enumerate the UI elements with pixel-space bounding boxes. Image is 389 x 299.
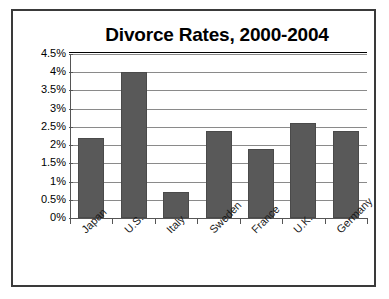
y-axis-tick-label: 1% [18,176,66,187]
y-axis-tick [69,54,73,55]
y-axis-tick-label: 3% [18,103,66,114]
y-axis-tick [69,163,73,164]
x-axis-tick [197,219,198,224]
bar [290,123,316,218]
y-axis-tick [69,200,73,201]
bar [121,72,147,218]
title-underline [69,52,367,53]
y-axis-tick [69,90,73,91]
chart-title: Divorce Rates, 2000-2004 [67,24,367,46]
y-axis-tick-label: 4.5% [18,48,66,59]
x-axis-tick [240,219,241,224]
y-axis-tick-label: 0.5% [18,194,66,205]
x-axis-tick [70,219,71,224]
y-axis-tick-label: 4% [18,66,66,77]
y-axis-tick-labels: 0%0.5%1%1.5%2%2.5%3%3.5%4%4.5% [16,54,66,219]
gridline [70,127,367,128]
chart-frame: Divorce Rates, 2000-2004 0%0.5%1%1.5%2%2… [11,9,376,287]
x-axis-tick [155,219,156,224]
gridline [70,109,367,110]
y-axis-tick-label: 0% [18,212,66,223]
gridline [70,72,367,73]
gridline [70,54,367,55]
gridline [70,90,367,91]
x-axis-tick [325,219,326,224]
y-axis-tick [69,109,73,110]
y-axis-tick-label: 3.5% [18,84,66,95]
y-axis-tick [69,182,73,183]
y-axis-line [70,54,71,219]
y-axis-tick [69,127,73,128]
y-axis-tick-label: 1.5% [18,157,66,168]
y-axis-tick [69,72,73,73]
x-axis-tick [367,219,368,224]
plot-area [70,54,367,218]
y-axis-tick [69,145,73,146]
y-axis-tick-label: 2.5% [18,121,66,132]
y-axis-tick-label: 2% [18,139,66,150]
x-axis-tick [112,219,113,224]
x-axis-tick [282,219,283,224]
